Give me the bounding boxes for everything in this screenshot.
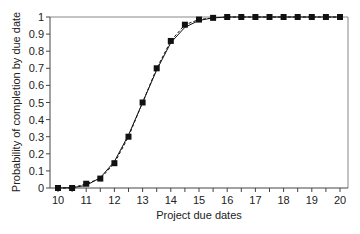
- y-axis-title: Probability of completion by due date: [10, 12, 22, 192]
- y-tick-label: 0.7: [29, 62, 44, 74]
- y-tick-label: 0.6: [29, 79, 44, 91]
- series-layer: [55, 14, 343, 191]
- y-tick-label: 0: [38, 182, 44, 194]
- y-axis: 00.10.20.30.40.50.60.70.80.91: [29, 11, 50, 194]
- x-tick-label: 18: [277, 194, 289, 206]
- y-tick-label: 0.8: [29, 45, 44, 57]
- series-line-0: [58, 17, 340, 188]
- x-axis: 1011121314151617181920: [50, 188, 348, 206]
- probability-chart: 00.10.20.30.40.50.60.70.80.91 1011121314…: [0, 0, 360, 234]
- y-tick-label: 1: [38, 11, 44, 23]
- plot-frame: [50, 17, 348, 188]
- x-tick-label: 16: [221, 194, 233, 206]
- y-tick-label: 0.1: [29, 165, 44, 177]
- series-line-1: [58, 17, 340, 188]
- y-tick-label: 0.2: [29, 148, 44, 160]
- y-tick-label: 0.3: [29, 131, 44, 143]
- y-tick-label: 0.9: [29, 28, 44, 40]
- x-tick-label: 19: [306, 194, 318, 206]
- x-tick-label: 13: [136, 194, 148, 206]
- x-tick-label: 10: [52, 194, 64, 206]
- y-tick-label: 0.4: [29, 114, 44, 126]
- x-tick-label: 14: [165, 194, 177, 206]
- x-tick-label: 12: [108, 194, 120, 206]
- x-axis-title: Project due dates: [156, 209, 242, 221]
- x-tick-label: 17: [249, 194, 261, 206]
- y-tick-label: 0.5: [29, 97, 44, 109]
- x-tick-label: 15: [193, 194, 205, 206]
- x-tick-label: 11: [80, 194, 91, 206]
- x-tick-label: 20: [334, 194, 346, 206]
